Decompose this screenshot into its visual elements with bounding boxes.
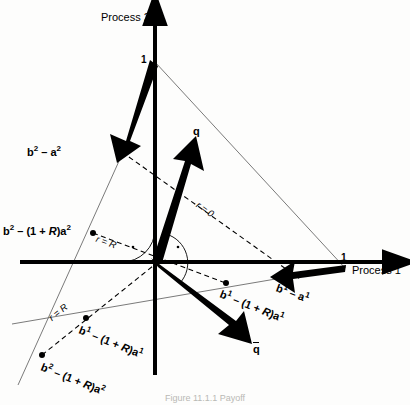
- point-b1-minus-1pR-a1-right: [223, 280, 229, 286]
- axes-group: [20, 22, 386, 375]
- vector-b2-minus-a2: [110, 60, 158, 163]
- figure-container: Process 2 1 Process 1 1 b2 – a2 q q b2 –…: [0, 0, 410, 405]
- x-axis-label: Process 1: [352, 265, 401, 276]
- x-axis-tick-1: 1: [341, 253, 347, 263]
- right-angle-dot-left: [132, 246, 135, 249]
- figure-caption: Figure 11.1.1 Payoff: [0, 393, 410, 403]
- label-q: q: [193, 126, 200, 137]
- point-b1-minus-1pR-a1: [83, 315, 89, 321]
- label-q-bar: q: [253, 344, 260, 355]
- thin-iso-line-2: [18, 150, 124, 385]
- point-b2-minus-1pR-a2-lower: [39, 352, 45, 358]
- label-b2-minus-a2: b2 – a2: [27, 145, 61, 158]
- vector-q: [152, 136, 204, 263]
- y-axis-label: Process 2: [101, 12, 150, 23]
- point-dots-group: [39, 230, 229, 358]
- label-b2-minus-1pR-a2: b2 – (1 + R)a2: [3, 224, 71, 237]
- point-b2-minus-1pR-a2: [90, 230, 96, 236]
- right-angle-dot-center: [177, 246, 180, 249]
- thin-iso-line-1: [155, 62, 345, 268]
- y-axis-tick-1: 1: [141, 55, 147, 65]
